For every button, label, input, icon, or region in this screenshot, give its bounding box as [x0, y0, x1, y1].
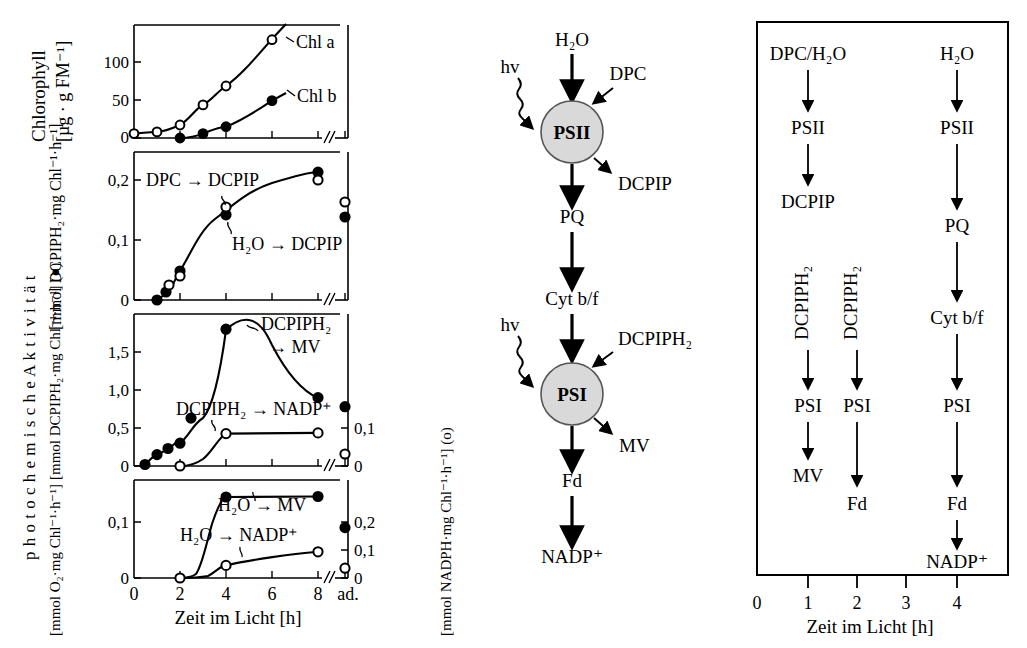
- h2o-nadp-label: H₂O → NADP⁺: [180, 525, 298, 545]
- xtick-8: 8: [314, 584, 323, 604]
- scheme-fd-label: Fd: [562, 470, 583, 491]
- panel3-x-ticks: [180, 459, 345, 466]
- scheme-dcpip-label: DCPIP: [618, 173, 672, 194]
- xtick-4: 4: [222, 584, 231, 604]
- xtick-6: 6: [268, 584, 277, 604]
- panel1-ytick-0: 0: [121, 128, 130, 147]
- panel1-ytick-100: 100: [104, 53, 130, 72]
- nadph-axis-title-right-text: [mmol NADPH·mg Chl⁻¹·h⁻¹] (o): [438, 427, 454, 636]
- chain-dcpiph2-fd: DCPIPH₂ PSI Fd: [840, 266, 871, 514]
- dcpiph2-nadp-label: DCPIPH₂ → NADP⁺: [176, 399, 332, 419]
- h2o-panel: 0 0,1 0 0,1 0,2 0 2 4 6 8 ad. Zeit im Li…: [108, 480, 376, 628]
- scheme-hv-top-label: hv: [501, 56, 521, 77]
- chain2-item-2: MV: [793, 465, 824, 486]
- panel3-ytick-15: 1,5: [108, 343, 129, 362]
- scheme-psii-label: PSII: [554, 122, 591, 143]
- scheme-pq-label: PQ: [560, 206, 585, 227]
- panel4-axis-break: [324, 571, 335, 583]
- scheme-h2o-label: H₂O: [555, 29, 589, 50]
- scheme-diagram: H₂O hv DPC PSII DCPIP PQ Cyt b/f hv DCPI…: [470, 0, 720, 648]
- scheme-dcpiph2-label: DCPIPH₂: [618, 328, 692, 349]
- timeline-xtick-4: 4: [953, 593, 962, 613]
- panel2-ytick-0: 0: [121, 291, 130, 310]
- chain-dcpip: DPC/H₂O PSII DCPIP: [770, 43, 846, 212]
- scheme-hv-bottom-label: hv: [501, 314, 521, 335]
- scheme-mv-label: MV: [619, 435, 650, 456]
- chain-h2o-nadp: H₂O PSII PQ Cyt b/f PSI Fd NADP⁺: [926, 43, 988, 572]
- scheme-nadp-label: NADP⁺: [541, 546, 603, 567]
- h2o-nadp-leader: [240, 547, 242, 557]
- chain1-item-0: DPC/H₂O: [770, 43, 846, 64]
- panel2-ytick-02: 0,2: [108, 171, 129, 190]
- chain1-item-2: DCPIP: [781, 191, 835, 212]
- x-axis-title: Zeit im Licht [h]: [174, 607, 301, 628]
- chain4-item-6: NADP⁺: [926, 551, 988, 572]
- scheme-dcpiph2-arrow: [594, 352, 613, 366]
- nadph-axis-title-right: [mmol NADPH·mg Chl⁻¹·h⁻¹] (o): [437, 427, 455, 636]
- scheme-cytbf-label: Cyt b/f: [545, 288, 599, 309]
- panel3-axis-break: [324, 459, 335, 471]
- chain2-item-0: DCPIPH₂: [791, 266, 812, 340]
- chain4-item-3: Cyt b/f: [930, 307, 984, 328]
- scheme-dpc-label: DPC: [610, 63, 647, 84]
- dpc-dcpip-label: DPC → DCPIP: [146, 170, 259, 190]
- h2o-axis-title-left: [mmol O₂·mg Chl⁻¹·h⁻¹]: [46, 484, 64, 636]
- h2o-dcpip-label: H₂O → DCPIP: [232, 234, 342, 254]
- dcpiph2-panel: 0 0,5 1,0 1,5 0 0,1: [108, 314, 376, 476]
- chain3-item-0: DCPIPH₂: [840, 266, 861, 340]
- chain4-item-0: H₂O: [940, 43, 974, 64]
- panel3-ytick-right-0: 0: [354, 457, 363, 476]
- panel2-ytick-01: 0,1: [108, 231, 129, 250]
- dcpiph2-mv-leader: [247, 325, 258, 331]
- timeline-xtick-1: 1: [804, 593, 813, 613]
- panel4-ytick-0: 0: [121, 569, 130, 588]
- panel1-axis-break: [324, 131, 335, 143]
- scheme-psi-label: PSI: [557, 384, 587, 405]
- scheme-dcpip-arrow: [594, 158, 610, 172]
- chain4-item-5: Fd: [947, 493, 968, 514]
- chl-a-leader: [286, 37, 294, 42]
- h2o-mv-label: H₂O → MV: [218, 495, 306, 515]
- dcpiph2-axis-title-left: [mmol DCPIPH₂·mg Chl⁻¹·h⁻¹] (●): [46, 263, 64, 480]
- panel3-ytick-05: 0,5: [108, 419, 129, 438]
- scheme-dpc-arrow: [594, 88, 613, 103]
- dcpiph2-nadp-points: [175, 428, 322, 470]
- dcpiph2-mv-arrow-label: → MV: [269, 337, 321, 357]
- panel1-ytick-50: 50: [112, 91, 129, 110]
- dcpiph2-axis-title-left-text: [mmol DCPIPH₂·mg Chl⁻¹·h⁻¹] (●): [47, 263, 63, 480]
- timeline-diagram: 0 1 2 3 4 Zeit im Licht [h] DPC/H₂O PSII…: [720, 0, 1027, 648]
- scheme-hv-top-squiggle-icon: [517, 78, 532, 128]
- panel4-y-ticks-left: [134, 522, 141, 578]
- dcpiph2-nadp-leader: [212, 420, 216, 431]
- timeline-xtick-3: 3: [902, 593, 911, 613]
- chl-a-label: Chl a: [296, 32, 335, 52]
- panel4-ytick-01: 0,1: [108, 513, 129, 532]
- dcpip-panel: 0 0,1 0,2 DPC → DCPIP H₂O → DCPIP: [108, 152, 350, 310]
- scheme-hv-bottom-squiggle-icon: [517, 336, 532, 386]
- chl-a-curve: [134, 24, 286, 134]
- panel4-ytick-right-01: 0,1: [354, 541, 375, 560]
- chlorophyll-panel: 0 50 100 Chl a Chl b: [104, 24, 349, 147]
- chl-b-label: Chl b: [297, 86, 337, 106]
- timeline-x-axis-title: Zeit im Licht [h]: [806, 616, 933, 637]
- panel2-x-ticks: [180, 293, 345, 300]
- xtick-adapted: ad.: [337, 584, 359, 604]
- panel3-ytick-0: 0: [121, 457, 130, 476]
- dcpiph2-nadp-curve: [180, 433, 318, 466]
- timeline-xtick-2: 2: [853, 593, 862, 613]
- activity-axis-title: p h o t o c h e m i s c h e A k t i v i …: [20, 275, 40, 560]
- panel3-y-ticks-left: [134, 352, 141, 466]
- panel3-ytick-right-01: 0,1: [354, 419, 375, 438]
- chain1-item-1: PSII: [791, 117, 825, 138]
- chain4-item-2: PQ: [945, 215, 970, 236]
- dcpiph2-label: DCPIPH₂: [261, 314, 331, 334]
- h2o-dcpip-leader: [228, 222, 232, 234]
- panel3-ytick-10: 1,0: [108, 381, 129, 400]
- chain-dcpiph2-mv: DCPIPH₂ PSI MV: [791, 266, 824, 486]
- panel2-y-ticks: [134, 180, 141, 300]
- panel2-axis-break: [324, 293, 335, 305]
- chain3-item-1: PSI: [843, 395, 870, 416]
- timeline-xtick-0: 0: [753, 593, 762, 613]
- chl-a-points: [130, 35, 277, 138]
- chain4-item-4: PSI: [943, 395, 970, 416]
